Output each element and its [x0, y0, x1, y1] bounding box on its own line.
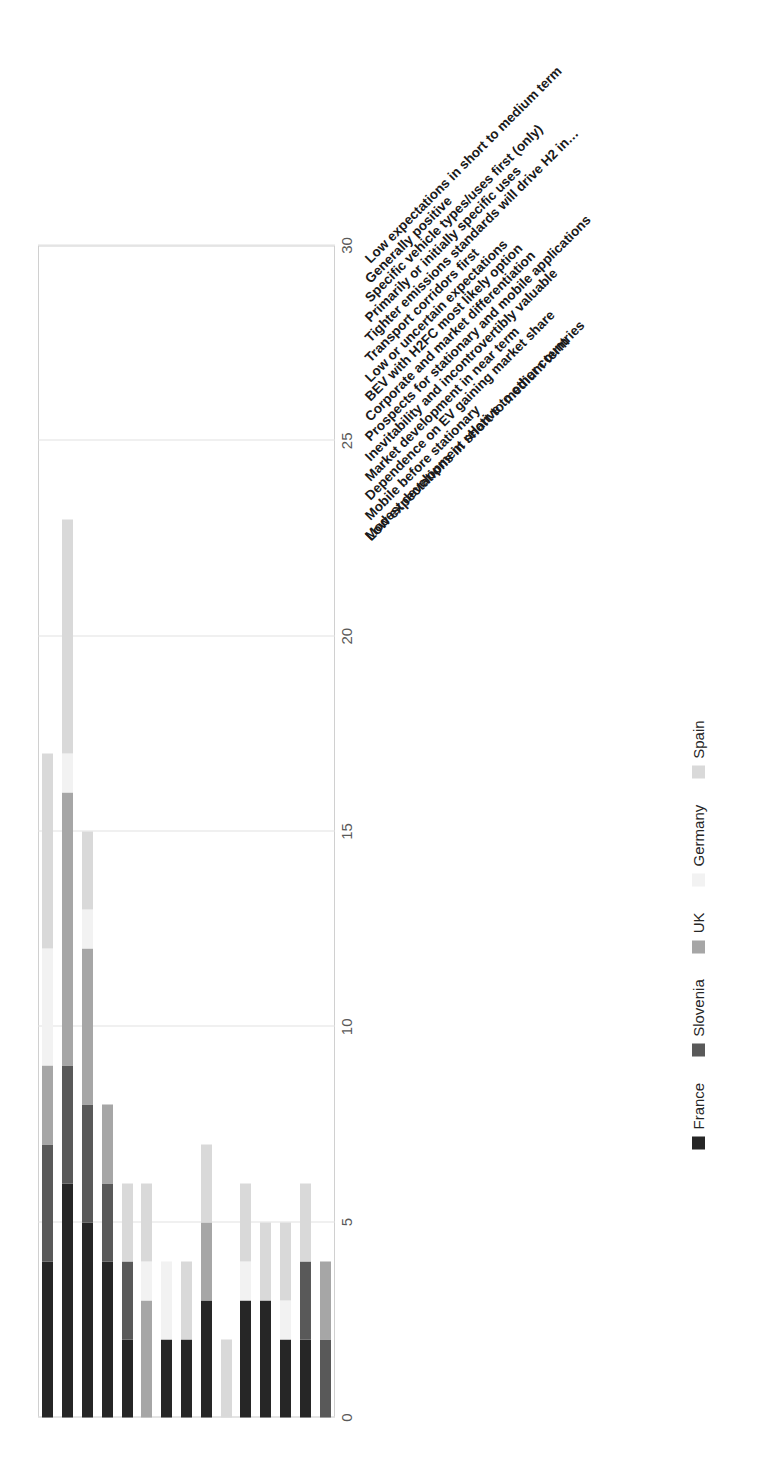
bar-segment-spain	[141, 1183, 152, 1261]
bar-segment-france	[122, 1339, 133, 1417]
table-row	[122, 245, 133, 1417]
bar-segment-uk	[102, 1104, 113, 1182]
legend-item-germany[interactable]: Germany	[690, 804, 707, 886]
bar-segment-spain	[122, 1183, 133, 1261]
table-row	[201, 245, 212, 1417]
bar-segment-france	[161, 1339, 172, 1417]
plot-area	[38, 245, 335, 1417]
table-row	[102, 245, 113, 1417]
bar-series-container	[38, 245, 335, 1417]
bar-segment-spain	[300, 1183, 311, 1261]
table-row	[280, 245, 291, 1417]
bar-segment-france	[260, 1300, 271, 1417]
table-row	[240, 245, 251, 1417]
table-row	[141, 245, 152, 1417]
table-row	[300, 245, 311, 1417]
bar-segment-france	[300, 1339, 311, 1417]
bar-segment-uk	[62, 792, 73, 1065]
legend-swatch-icon	[692, 1043, 705, 1056]
bar-segment-germany	[280, 1300, 291, 1339]
table-row	[181, 245, 192, 1417]
table-row	[62, 245, 73, 1417]
bar-segment-slovenia	[320, 1339, 331, 1417]
legend-label: Spain	[690, 720, 707, 758]
table-row	[161, 245, 172, 1417]
bar-segment-slovenia	[122, 1261, 133, 1339]
legend-swatch-icon	[692, 765, 705, 778]
table-row	[260, 245, 271, 1417]
legend-swatch-icon	[692, 940, 705, 953]
bar-segment-germany	[62, 753, 73, 792]
bar-segment-spain	[181, 1261, 192, 1339]
bar-segment-spain	[62, 519, 73, 753]
table-row	[82, 245, 93, 1417]
chart-figure: 051015202530 Low expectations in short t…	[0, 0, 772, 1479]
bar-segment-slovenia	[102, 1183, 113, 1261]
bar-segment-slovenia	[300, 1261, 311, 1339]
legend-item-spain[interactable]: Spain	[690, 720, 707, 778]
bar-segment-spain	[82, 831, 93, 909]
legend-label: UK	[690, 912, 707, 933]
bar-segment-slovenia	[42, 1144, 53, 1261]
category-labels: Low expectations in short to medium term…	[336, 245, 596, 1417]
bar-segment-spain	[240, 1183, 251, 1261]
bar-segment-france	[42, 1261, 53, 1417]
bar-segment-france	[62, 1183, 73, 1417]
bar-segment-spain	[42, 753, 53, 948]
legend-item-uk[interactable]: UK	[690, 912, 707, 953]
bar-segment-slovenia	[82, 1104, 93, 1221]
table-row	[42, 245, 53, 1417]
legend-item-slovenia[interactable]: Slovenia	[690, 979, 707, 1057]
bar-segment-france	[181, 1339, 192, 1417]
legend-swatch-icon	[692, 1136, 705, 1149]
bar-segment-uk	[201, 1222, 212, 1300]
chart-legend: FranceSloveniaUKGermanySpain	[690, 720, 707, 1149]
legend-label: Slovenia	[690, 979, 707, 1037]
bar-segment-spain	[280, 1222, 291, 1300]
bar-segment-uk	[141, 1300, 152, 1417]
table-row	[221, 245, 232, 1417]
bar-segment-spain	[201, 1144, 212, 1222]
bar-segment-germany	[82, 909, 93, 948]
bar-segment-spain	[221, 1339, 232, 1417]
bar-segment-germany	[42, 948, 53, 1065]
bar-segment-france	[280, 1339, 291, 1417]
legend-swatch-icon	[692, 873, 705, 886]
bar-segment-uk	[320, 1261, 331, 1339]
bar-segment-france	[201, 1300, 212, 1417]
table-row	[320, 245, 331, 1417]
bar-segment-france	[102, 1261, 113, 1417]
legend-label: France	[690, 1082, 707, 1129]
bar-segment-germany	[161, 1261, 172, 1339]
bar-segment-france	[82, 1222, 93, 1417]
bar-segment-uk	[42, 1065, 53, 1143]
chart-screenshot: 051015202530 Low expectations in short t…	[0, 0, 772, 1479]
bar-segment-uk	[82, 948, 93, 1104]
bar-segment-slovenia	[62, 1065, 73, 1182]
bar-segment-france	[240, 1300, 251, 1417]
bar-segment-germany	[240, 1261, 251, 1300]
bar-segment-spain	[260, 1222, 271, 1300]
legend-item-france[interactable]: France	[690, 1082, 707, 1149]
bar-segment-germany	[141, 1261, 152, 1300]
legend-label: Germany	[690, 804, 707, 866]
